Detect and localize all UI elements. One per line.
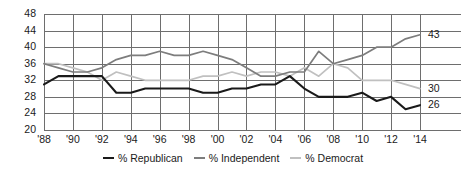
series-lines xyxy=(44,35,420,110)
x-axis-tick-label: '04 xyxy=(259,133,291,145)
x-axis-tick-label: '92 xyxy=(86,133,118,145)
x-axis-tick-label: '10 xyxy=(346,133,378,145)
chart-legend: % Republican% Independent% Democrat xyxy=(0,152,466,164)
legend-line-swatch-icon xyxy=(103,157,114,159)
legend-item: % Democrat xyxy=(290,152,363,164)
series-line xyxy=(44,35,420,76)
y-axis-tick-label: 24 xyxy=(6,106,36,118)
series-end-label: 43 xyxy=(428,28,440,40)
x-axis-tick-label: '06 xyxy=(288,133,320,145)
y-axis-tick-label: 32 xyxy=(6,73,36,85)
legend-line-swatch-icon xyxy=(290,157,301,159)
x-axis-tick-label: '88 xyxy=(28,133,60,145)
x-axis-tick-label: '98 xyxy=(173,133,205,145)
y-axis-tick-label: 44 xyxy=(6,24,36,36)
series-end-label: 26 xyxy=(428,98,440,110)
legend-line-swatch-icon xyxy=(194,157,205,159)
legend-item: % Republican xyxy=(103,152,183,164)
x-axis-tick-label: '94 xyxy=(115,133,147,145)
series-end-label: 30 xyxy=(428,82,440,94)
legend-label: % Democrat xyxy=(305,152,363,164)
x-axis-tick-label: '96 xyxy=(144,133,176,145)
legend-label: % Independent xyxy=(209,152,280,164)
x-axis-tick-label: '90 xyxy=(57,133,89,145)
x-axis-tick-label: '02 xyxy=(230,133,262,145)
x-axis-tick-label: '14 xyxy=(404,133,436,145)
chart-plot-area xyxy=(0,0,466,175)
x-axis-tick-label: '12 xyxy=(375,133,407,145)
legend-item: % Independent xyxy=(194,152,280,164)
x-axis-tick-label: '08 xyxy=(317,133,349,145)
x-axis-tick-label: '00 xyxy=(202,133,234,145)
y-axis-tick-label: 36 xyxy=(6,57,36,69)
y-axis-tick-label: 40 xyxy=(6,40,36,52)
party-identification-line-chart: 2024283236404448 '88'90'92'94'96'98'00'0… xyxy=(0,0,466,175)
y-axis-tick-label: 28 xyxy=(6,90,36,102)
legend-label: % Republican xyxy=(118,152,183,164)
y-axis-tick-label: 48 xyxy=(6,7,36,19)
